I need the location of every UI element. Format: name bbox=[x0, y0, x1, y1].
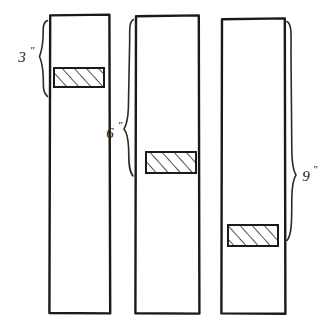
hatch-rect-middle bbox=[146, 152, 196, 173]
brace-9-inch-path bbox=[287, 22, 296, 241]
brace-3-inch: 3 ″ bbox=[17, 21, 47, 97]
board-left-group bbox=[49, 15, 110, 314]
hatch-rect-right bbox=[228, 225, 278, 246]
dimension-3-inch-value: 3 bbox=[17, 49, 26, 65]
dimension-3-inch-unit: ″ bbox=[30, 44, 35, 56]
board-middle-group bbox=[135, 15, 199, 313]
dimension-6-inch-unit: ″ bbox=[118, 119, 123, 131]
board-left-hatch-segment bbox=[54, 68, 104, 87]
hatch-rect-left bbox=[54, 68, 104, 87]
brace-9-inch: 9 ″ bbox=[287, 22, 318, 241]
board-right-hatch-segment bbox=[228, 225, 278, 246]
dimension-6-inch-value: 6 bbox=[106, 125, 114, 141]
dimension-9-inch-value: 9 bbox=[302, 168, 310, 184]
board-right-outline bbox=[221, 18, 285, 313]
brace-3-inch-path bbox=[40, 21, 48, 97]
brace-6-inch-path bbox=[124, 20, 134, 177]
board-middle-hatch-segment bbox=[146, 152, 196, 173]
dimension-9-inch-unit: ″ bbox=[313, 163, 318, 175]
boards-diagram: 3 ″ 6 ″ 9 ″ bbox=[0, 0, 336, 332]
board-right-group bbox=[221, 18, 285, 313]
figure-canvas: 3 ″ 6 ″ 9 ″ bbox=[0, 0, 336, 332]
board-left-outline bbox=[49, 15, 110, 314]
